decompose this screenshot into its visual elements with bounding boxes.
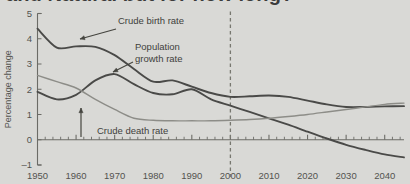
x-tick-label: 1990 xyxy=(181,170,202,181)
line-chart: –1012345Percentage change195019601970198… xyxy=(0,0,410,184)
death-rate-pointer-arrow-head xyxy=(79,108,83,113)
x-tick-label: 2040 xyxy=(374,170,395,181)
y-tick-label: 4 xyxy=(27,33,32,44)
figure-container: and Natural but for how long? –1012345Pe… xyxy=(0,0,410,184)
crude-death-rate-label: Crude death rate xyxy=(97,125,168,136)
x-tick-label: 2020 xyxy=(297,170,318,181)
crude-birth-rate-label-head xyxy=(80,36,85,40)
x-tick-label: 2010 xyxy=(258,170,279,181)
series-line-population-growth-rate xyxy=(38,74,405,157)
y-axis-title: Percentage change xyxy=(3,50,13,128)
population-growth-rate-label-line1: Population xyxy=(135,41,180,52)
page-title: and Natural but for how long? xyxy=(6,0,293,6)
x-tick-label: 1950 xyxy=(27,170,48,181)
x-tick-label: 1960 xyxy=(66,170,87,181)
chart-title-strip: and Natural but for how long? xyxy=(0,0,410,9)
x-tick-label: 1980 xyxy=(143,170,164,181)
population-growth-rate-label-line2: growth rate xyxy=(135,53,183,64)
series-line-crude-birth-rate xyxy=(38,29,405,107)
population-growth-rate-label-head xyxy=(113,68,118,72)
y-tick-label: 3 xyxy=(27,58,32,69)
y-tick-label: 2 xyxy=(27,84,32,95)
crude-birth-rate-label-shaft xyxy=(80,29,116,39)
x-tick-label: 2030 xyxy=(336,170,357,181)
crude-birth-rate-label: Crude birth rate xyxy=(118,15,184,26)
x-tick-label: 1970 xyxy=(104,170,125,181)
y-tick-label: –1 xyxy=(21,159,32,170)
y-tick-label: 0 xyxy=(27,134,32,145)
y-tick-label: 1 xyxy=(27,109,32,120)
y-tick-label: 5 xyxy=(27,8,32,19)
